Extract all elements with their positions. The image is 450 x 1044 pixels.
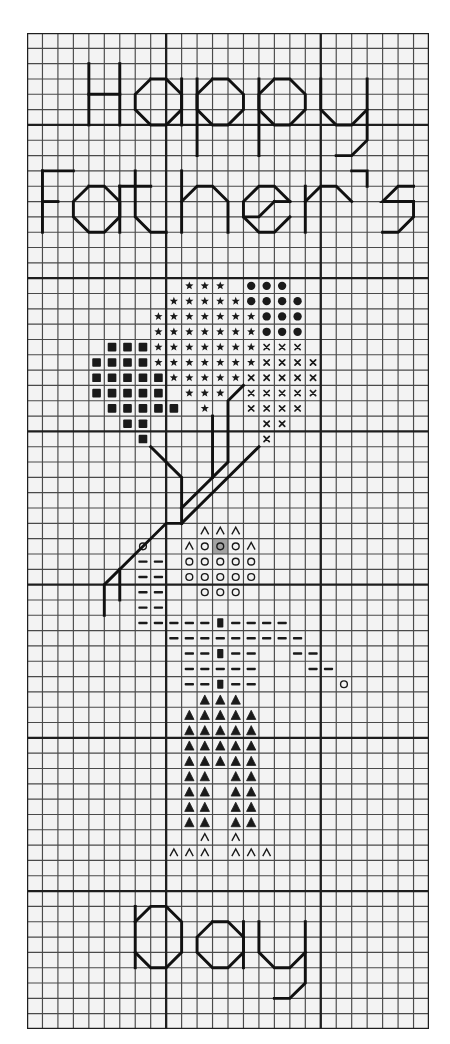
dash-icon: [247, 668, 256, 670]
shaded-cells: [213, 539, 228, 554]
dash-icon: [277, 637, 286, 639]
filled-square-icon: [139, 419, 148, 428]
filled-dot-icon: [262, 312, 270, 320]
filled-square-icon: [108, 389, 117, 398]
dash-icon: [231, 668, 240, 670]
dash-icon: [231, 622, 240, 624]
dash-icon: [200, 683, 209, 685]
filled-square-icon: [92, 373, 101, 382]
filled-dot-icon: [293, 328, 301, 336]
dash-icon: [200, 668, 209, 670]
dash-icon: [154, 560, 163, 562]
filled-square-icon: [92, 389, 101, 398]
dash-icon: [154, 591, 163, 593]
dash-icon: [308, 668, 317, 670]
dash-icon: [154, 622, 163, 624]
dash-icon: [138, 622, 147, 624]
block-icon: [217, 618, 223, 627]
filled-dot-icon: [278, 328, 286, 336]
dash-icon: [185, 637, 194, 639]
filled-square-icon: [139, 404, 148, 413]
dash-icon: [247, 652, 256, 654]
filled-square-icon: [108, 343, 117, 352]
dash-icon: [169, 622, 178, 624]
dash-icon: [216, 668, 225, 670]
filled-square-icon: [92, 358, 101, 367]
filled-square-icon: [139, 358, 148, 367]
dash-icon: [277, 622, 286, 624]
dash-icon: [154, 606, 163, 608]
filled-square-icon: [123, 389, 132, 398]
filled-dot-icon: [278, 312, 286, 320]
filled-dot-icon: [247, 282, 255, 290]
dash-icon: [185, 622, 194, 624]
dash-icon: [200, 637, 209, 639]
filled-dot-icon: [262, 282, 270, 290]
filled-dot-icon: [293, 312, 301, 320]
filled-dot-icon: [247, 297, 255, 305]
filled-dot-icon: [262, 297, 270, 305]
filled-square-icon: [154, 389, 163, 398]
dash-icon: [293, 652, 302, 654]
dash-icon: [200, 652, 209, 654]
shaded-cell: [213, 539, 228, 554]
filled-square-icon: [108, 404, 117, 413]
dash-icon: [247, 683, 256, 685]
dash-icon: [216, 637, 225, 639]
dash-icon: [262, 637, 271, 639]
filled-dot-icon: [262, 328, 270, 336]
dash-icon: [200, 622, 209, 624]
dash-icon: [185, 652, 194, 654]
filled-square-icon: [139, 435, 148, 444]
dash-icon: [138, 591, 147, 593]
dash-icon: [138, 606, 147, 608]
filled-square-icon: [123, 373, 132, 382]
filled-square-icon: [108, 358, 117, 367]
filled-square-icon: [139, 343, 148, 352]
filled-square-icon: [139, 373, 148, 382]
dash-icon: [247, 622, 256, 624]
filled-dot-icon: [278, 297, 286, 305]
dash-icon: [308, 652, 317, 654]
filled-square-icon: [108, 373, 117, 382]
filled-square-icon: [123, 343, 132, 352]
filled-square-icon: [123, 404, 132, 413]
filled-square-icon: [123, 358, 132, 367]
dash-icon: [231, 652, 240, 654]
dash-icon: [231, 683, 240, 685]
cross-stitch-chart: Happy Father's Day: [27, 33, 429, 1029]
block-icon: [217, 649, 223, 658]
filled-square-icon: [154, 404, 163, 413]
dash-icon: [154, 576, 163, 578]
dash-icon: [185, 683, 194, 685]
dash-icon: [247, 637, 256, 639]
dash-icon: [293, 637, 302, 639]
pattern-grid: [27, 33, 429, 1029]
filled-square-icon: [123, 419, 132, 428]
dash-icon: [185, 668, 194, 670]
filled-dot-icon: [293, 297, 301, 305]
dash-icon: [324, 668, 333, 670]
filled-dot-icon: [278, 282, 286, 290]
filled-square-icon: [139, 389, 148, 398]
filled-square-icon: [170, 404, 179, 413]
dash-icon: [262, 622, 271, 624]
dash-icon: [138, 576, 147, 578]
dash-icon: [138, 560, 147, 562]
filled-square-icon: [154, 373, 163, 382]
dash-icon: [231, 637, 240, 639]
dash-icon: [169, 637, 178, 639]
block-icon: [217, 680, 223, 689]
